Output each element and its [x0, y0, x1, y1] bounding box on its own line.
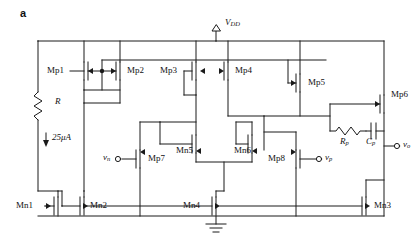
mp4-arrow-icon — [219, 68, 224, 74]
label-mn4: Mn4 — [183, 201, 200, 210]
mp8-arrow-icon — [291, 149, 296, 155]
circuit-schematic — [0, 0, 419, 238]
label-mn3: Mn3 — [374, 201, 391, 210]
comp-resistor-symbol — [330, 127, 366, 135]
in-neg-terminal-icon — [115, 156, 120, 161]
mn3-arrow-icon — [365, 203, 370, 209]
label-mp6: Mp6 — [391, 90, 408, 99]
label-mn5: Mn5 — [176, 146, 193, 155]
mp3-arrow-icon — [200, 68, 205, 74]
label-mp1: Mp1 — [47, 66, 64, 75]
label-in-neg: vn — [103, 153, 110, 163]
mn1-arrow-icon — [46, 203, 51, 209]
mn5-arrow-icon — [196, 148, 201, 154]
label-mp4: Mp4 — [235, 66, 252, 75]
mp5-arrow-icon — [291, 80, 296, 86]
label-mn1: Mn1 — [16, 201, 33, 210]
label-mp7: Mp7 — [148, 154, 165, 163]
label-mp5: Mp5 — [308, 78, 325, 87]
figure-panel: a — [0, 0, 419, 238]
bias-resistor-symbol — [34, 92, 42, 120]
mp7-arrow-icon — [140, 149, 145, 155]
label-in-pos: vp — [325, 153, 332, 163]
mn6-arrow-icon — [252, 148, 257, 154]
label-mn6: Mn6 — [234, 146, 251, 155]
label-vdd: VDD — [225, 18, 240, 28]
label-mp8: Mp8 — [268, 154, 285, 163]
label-mp2: Mp2 — [127, 66, 144, 75]
mn4-arrow-icon — [215, 203, 220, 209]
label-out: vo — [403, 140, 410, 150]
out-terminal-icon — [394, 143, 399, 148]
bias-current-arrow-icon — [43, 140, 49, 147]
label-mp3: Mp3 — [160, 66, 177, 75]
label-mn2: Mn2 — [90, 201, 107, 210]
in-pos-terminal-icon — [316, 156, 321, 161]
label-bias-current: 25μA — [52, 133, 71, 142]
label-bias-resistor: R — [55, 97, 61, 106]
label-comp-resistor: Rp — [340, 137, 349, 147]
vdd-arrow-icon — [212, 25, 220, 31]
mp6-arrow-icon — [375, 101, 380, 107]
label-comp-capacitor: Cp — [366, 137, 375, 147]
